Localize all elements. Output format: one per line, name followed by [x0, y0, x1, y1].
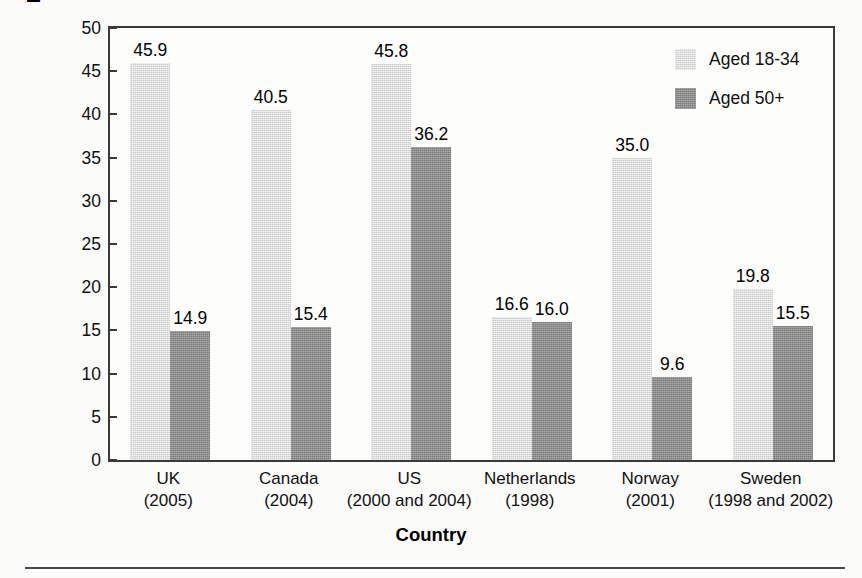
legend-label: Aged 18-34: [709, 49, 800, 70]
bar-value-label: 35.0: [604, 135, 660, 156]
legend-item[interactable]: Aged 18-34: [675, 49, 825, 70]
bar-value-label: 15.5: [765, 303, 821, 324]
bar-group: 45.914.9: [130, 28, 210, 460]
bar[interactable]: [291, 327, 331, 460]
y-tick-label: 35: [82, 147, 110, 168]
x-tick-label: Norway(2001): [621, 468, 679, 512]
y-tick-label: 20: [82, 277, 110, 298]
bar[interactable]: [773, 326, 813, 460]
bar-group: 40.515.4: [251, 28, 331, 460]
y-tick-label: 5: [91, 406, 110, 427]
y-tick-label: 25: [82, 234, 110, 255]
y-tick-label: 10: [82, 363, 110, 384]
y-tick-label: 30: [82, 190, 110, 211]
y-tick-label: 40: [82, 104, 110, 125]
y-axis-title-text: Percentage point difference in voter tur…: [23, 0, 68, 3]
x-axis-title: Country: [0, 524, 862, 546]
bar[interactable]: [411, 147, 451, 460]
bottom-divider: [25, 567, 845, 569]
chart-figure: Percentage point difference in voter tur…: [0, 0, 862, 578]
chart-legend: Aged 18-34Aged 50+: [675, 49, 825, 127]
bar[interactable]: [652, 377, 692, 460]
x-tick-label-country: UK: [156, 469, 180, 488]
bar-value-label: 45.9: [122, 40, 178, 61]
y-tick-label: 50: [82, 18, 110, 39]
x-tick-label: Canada(2004): [259, 468, 319, 512]
x-tick-label: UK(2005): [144, 468, 193, 512]
x-tick-label: US(2000 and 2004): [347, 468, 472, 512]
bar-value-label: 9.6: [644, 354, 700, 375]
bar-value-label: 16.0: [524, 299, 580, 320]
bar-value-label: 40.5: [243, 87, 299, 108]
y-tick-label: 15: [82, 320, 110, 341]
bar[interactable]: [612, 158, 652, 460]
bar-value-label: 19.8: [725, 266, 781, 287]
bar[interactable]: [130, 63, 170, 460]
bar-value-label: 36.2: [403, 124, 459, 145]
x-tick-labels: UK(2005)Canada(2004)US(2000 and 2004)Net…: [108, 468, 835, 520]
x-tick-label-year: (2001): [621, 490, 679, 512]
x-tick-label-year: (2000 and 2004): [347, 490, 472, 512]
x-tick-label: Sweden(1998 and 2002): [708, 468, 833, 512]
bar-group: 16.616.0: [492, 28, 572, 460]
x-tick-label-year: (1998): [484, 490, 576, 512]
y-axis-title: Percentage point difference in voter tur…: [14, 0, 78, 90]
bar-value-label: 14.9: [162, 308, 218, 329]
x-tick-label-country: Sweden: [740, 469, 801, 488]
legend-swatch-icon: [675, 88, 696, 109]
x-tick-label-country: US: [397, 469, 421, 488]
x-tick-label: Netherlands(1998): [484, 468, 576, 512]
x-tick-label-country: Canada: [259, 469, 319, 488]
legend-item[interactable]: Aged 50+: [675, 88, 825, 109]
x-tick-label-year: (2004): [259, 490, 319, 512]
bar[interactable]: [492, 317, 532, 460]
bar[interactable]: [251, 110, 291, 460]
bar[interactable]: [532, 322, 572, 460]
x-tick-label-country: Netherlands: [484, 469, 576, 488]
x-tick-label-country: Norway: [621, 469, 679, 488]
x-tick-label-year: (1998 and 2002): [708, 490, 833, 512]
bar-group: 45.836.2: [371, 28, 451, 460]
bar-value-label: 15.4: [283, 304, 339, 325]
y-tick-label: 45: [82, 61, 110, 82]
x-tick-label-year: (2005): [144, 490, 193, 512]
legend-label: Aged 50+: [709, 88, 784, 109]
legend-swatch-icon: [675, 49, 696, 70]
bar-value-label: 45.8: [363, 41, 419, 62]
bar[interactable]: [170, 331, 210, 460]
